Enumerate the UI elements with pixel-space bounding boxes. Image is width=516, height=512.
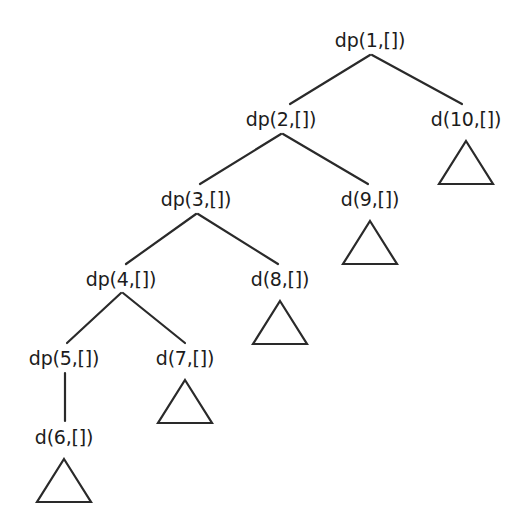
tree-node-n5: dp(5,[]) <box>29 349 99 368</box>
tree-node-n8: d(8,[]) <box>251 270 309 289</box>
tree-edge-n1-n10 <box>372 55 462 104</box>
tree-node-label: d(9,[]) <box>341 188 399 210</box>
tree-node-label: dp(4,[]) <box>86 268 156 290</box>
triangle-outline <box>439 141 493 184</box>
tree-node-label: d(7,[]) <box>156 347 214 369</box>
tree-node-label: dp(1,[]) <box>335 29 405 51</box>
tree-node-label: d(8,[]) <box>251 268 309 290</box>
tree-edge-n1-n2 <box>290 55 370 104</box>
subtree-triangle-n9 <box>341 219 399 266</box>
triangle-outline <box>37 459 91 502</box>
tree-node-label: dp(2,[]) <box>246 108 316 130</box>
tree-node-label: dp(3,[]) <box>161 188 231 210</box>
tree-edge-n2-n3 <box>200 134 281 184</box>
triangle-outline <box>158 380 212 423</box>
tree-node-label: d(6,[]) <box>35 426 93 448</box>
tree-edge-n4-n5 <box>67 293 121 343</box>
subtree-triangle-n8 <box>251 299 309 346</box>
tree-node-label: d(10,[]) <box>431 108 501 130</box>
tree-node-n3: dp(3,[]) <box>161 190 231 209</box>
triangle-outline <box>343 221 397 264</box>
tree-edge-n3-n4 <box>126 214 196 264</box>
subtree-triangle-n10 <box>437 139 495 186</box>
tree-node-n6: d(6,[]) <box>35 428 93 447</box>
subtree-triangle-n6 <box>35 457 93 504</box>
tree-node-n2: dp(2,[]) <box>246 110 316 129</box>
tree-node-label: dp(5,[]) <box>29 347 99 369</box>
tree-node-n4: dp(4,[]) <box>86 270 156 289</box>
tree-node-n9: d(9,[]) <box>341 190 399 209</box>
tree-edge-n2-n9 <box>283 134 368 184</box>
subtree-triangle-n7 <box>156 378 214 425</box>
tree-node-n1: dp(1,[]) <box>335 31 405 50</box>
triangle-outline <box>253 301 307 344</box>
tree-node-n10: d(10,[]) <box>431 110 501 129</box>
tree-edge-n3-n8 <box>198 214 278 264</box>
derivation-tree-diagram: dp(1,[])dp(2,[])d(10,[])dp(3,[])d(9,[])d… <box>0 0 516 512</box>
tree-node-n7: d(7,[]) <box>156 349 214 368</box>
tree-edge-n4-n7 <box>123 293 185 343</box>
